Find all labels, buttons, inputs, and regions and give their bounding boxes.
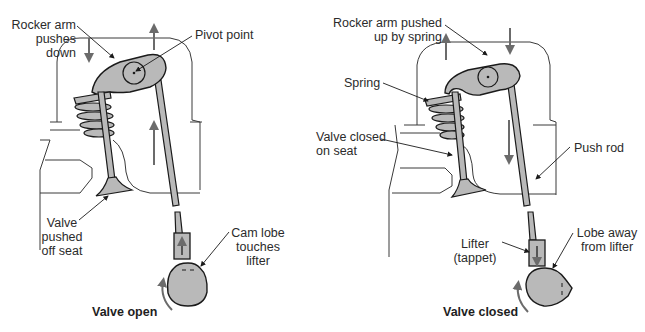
label-lifter-tappet: Lifter (tappet) — [450, 237, 500, 265]
valve-train-diagram: Rocker arm pushes down Pivot point Valve… — [0, 0, 645, 332]
label-pivot-point: Pivot point — [195, 28, 253, 42]
label-push-rod: Push rod — [574, 141, 624, 155]
label-spring: Spring — [344, 76, 380, 90]
label-lobe-away-from-lifter: Lobe away from lifter — [574, 226, 640, 254]
valve-head-left — [96, 177, 132, 196]
label-valve-pushed-off-seat: Valve pushed off seat — [40, 216, 84, 258]
panel-valve-open — [40, 26, 229, 310]
valve-head-right — [452, 179, 486, 197]
rocker-arm-left — [92, 55, 166, 95]
cam-lobe-right — [526, 268, 572, 306]
caption-valve-open: Valve open — [92, 305, 157, 319]
cam-lobe-left — [168, 263, 208, 306]
panel-valve-closed — [381, 25, 573, 312]
label-cam-lobe-touches-lifter: Cam lobe touches lifter — [228, 226, 288, 268]
push-rod-right — [508, 84, 530, 206]
caption-valve-closed: Valve closed — [443, 305, 518, 319]
diagram-artwork — [0, 0, 645, 332]
label-valve-closed-on-seat: Valve closed on seat — [316, 130, 386, 158]
push-rod-left — [155, 80, 183, 240]
label-rocker-arm-pushed-up-by-spring: Rocker arm pushed up by spring — [330, 16, 442, 44]
label-rocker-arm-pushes-down: Rocker arm pushes down — [10, 18, 76, 60]
